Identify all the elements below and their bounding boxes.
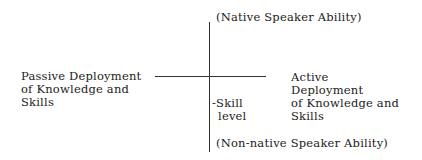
top-label: (Native Speaker Ability) (216, 11, 362, 25)
left-label-line3: Skills (21, 96, 54, 110)
axis-label-line2: level (218, 110, 246, 124)
bottom-label: (Non-native Speaker Ability) (216, 137, 388, 151)
right-label-line4: Skills (291, 110, 324, 124)
vertical-axis (209, 22, 210, 152)
horizontal-axis (155, 76, 266, 77)
